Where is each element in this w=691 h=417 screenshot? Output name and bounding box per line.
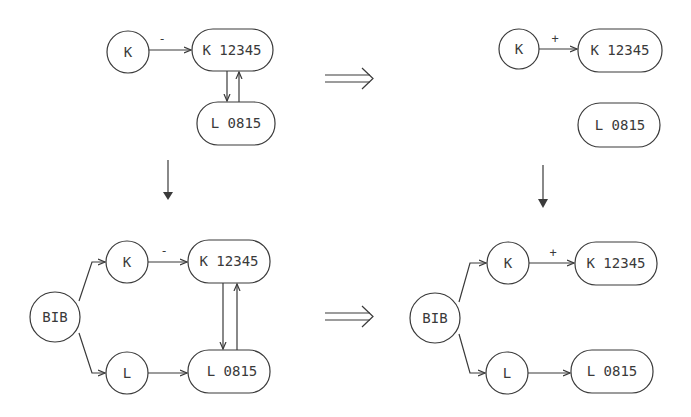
- edge-sign-label: -: [160, 244, 167, 258]
- diagram-canvas: K - K 12345 L 0815 K + K 12345: [0, 0, 691, 417]
- node-l0815: L 0815: [578, 103, 660, 147]
- node-l-label: L: [123, 365, 131, 381]
- node-l0815-label: L 0815: [587, 363, 638, 379]
- edge-bib-to-l: [459, 334, 485, 373]
- node-l0815-label: L 0815: [211, 115, 262, 131]
- node-k12345: K 12345: [578, 29, 662, 72]
- node-k12345-label: K 12345: [590, 42, 649, 58]
- edge-sign-label: +: [549, 246, 556, 260]
- node-k-label: K: [515, 41, 524, 57]
- node-k12345: K 12345: [188, 240, 270, 283]
- node-k-label: K: [124, 44, 133, 60]
- node-k12345: K 12345: [575, 242, 657, 285]
- node-l0815-label: L 0815: [207, 363, 258, 379]
- implies-arrow-top: [325, 68, 373, 89]
- node-k-label: K: [504, 255, 513, 271]
- edge-bib-to-l: [79, 333, 105, 373]
- edge-bib-to-k: [79, 262, 105, 301]
- node-k12345: K 12345: [192, 29, 273, 71]
- node-l0815: L 0815: [571, 350, 653, 393]
- node-k12345-label: K 12345: [199, 253, 258, 269]
- node-l: L: [486, 352, 528, 394]
- panel-top-right: K + K 12345 L 0815: [499, 29, 662, 147]
- down-arrow-left: [163, 160, 173, 200]
- implies-arrow-bottom: [325, 306, 373, 327]
- edge-sign-label: +: [551, 32, 558, 46]
- node-k: K: [107, 31, 149, 73]
- node-l0815: L 0815: [188, 350, 270, 393]
- node-l0815-label: L 0815: [595, 117, 646, 133]
- node-l: L: [106, 352, 148, 394]
- node-k: K: [487, 242, 529, 284]
- node-k12345-label: K 12345: [586, 255, 645, 271]
- node-l0815: L 0815: [197, 102, 275, 145]
- panel-bottom-left: BIB K L - K 12345 L 0815: [30, 240, 270, 394]
- panel-top-left: K - K 12345 L 0815: [107, 29, 275, 145]
- node-k12345-label: K 12345: [202, 42, 261, 58]
- node-k: K: [106, 241, 148, 283]
- node-bib: BIB: [30, 292, 80, 342]
- panel-bottom-right: BIB K L + K 12345 L 0815: [410, 242, 657, 394]
- edge-bib-to-k: [459, 263, 486, 302]
- edge-sign-label: -: [158, 32, 165, 46]
- node-k: K: [499, 29, 539, 69]
- node-bib: BIB: [410, 293, 460, 343]
- node-bib-label: BIB: [42, 309, 67, 325]
- node-k-label: K: [123, 254, 132, 270]
- node-bib-label: BIB: [422, 310, 447, 326]
- node-l-label: L: [503, 365, 511, 381]
- down-arrow-right: [538, 165, 548, 208]
